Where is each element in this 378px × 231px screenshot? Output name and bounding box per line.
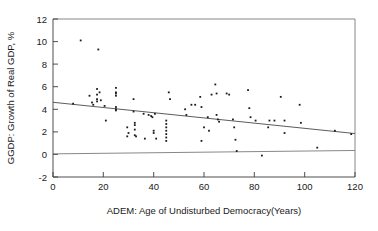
data-point-group xyxy=(72,40,352,157)
data-point xyxy=(134,124,136,126)
x-tick-label-80: 80 xyxy=(249,181,260,192)
data-point xyxy=(134,129,136,131)
data-point xyxy=(232,119,234,121)
data-point xyxy=(226,93,228,95)
data-point xyxy=(211,94,213,96)
data-point xyxy=(199,96,201,98)
data-point xyxy=(154,113,156,115)
data-point xyxy=(72,103,74,105)
data-point xyxy=(184,108,186,110)
y-tick-label-8: 8 xyxy=(42,59,47,70)
data-point xyxy=(168,91,170,93)
data-point xyxy=(115,95,117,97)
data-point xyxy=(299,104,301,106)
data-point xyxy=(191,104,193,106)
data-point xyxy=(155,138,157,140)
data-point xyxy=(235,139,237,141)
data-point xyxy=(135,135,137,137)
data-point xyxy=(115,106,117,108)
data-point xyxy=(169,98,171,100)
data-point xyxy=(115,93,117,95)
data-point xyxy=(284,120,286,122)
data-point xyxy=(274,120,276,122)
data-point xyxy=(216,114,218,116)
y-tick-label-2: 2 xyxy=(42,126,47,137)
data-point xyxy=(300,122,302,124)
data-point xyxy=(236,150,238,152)
data-point xyxy=(153,130,155,132)
y-tick-label-0: 0 xyxy=(42,149,47,160)
data-point xyxy=(194,104,196,106)
data-point xyxy=(216,93,218,95)
data-point xyxy=(165,123,167,125)
data-point xyxy=(96,94,98,96)
data-point xyxy=(96,88,98,90)
data-point xyxy=(316,147,318,149)
x-tick-label-0: 0 xyxy=(50,181,55,192)
data-point xyxy=(92,104,94,106)
data-point xyxy=(152,116,154,118)
x-tick-label-40: 40 xyxy=(148,181,159,192)
zero-reference-line xyxy=(53,150,355,153)
chart-canvas: 12 10 8 6 4 2 0 -2 0 20 40 60 80 100 120 xyxy=(0,0,378,231)
data-point xyxy=(133,111,135,113)
data-point xyxy=(207,116,209,118)
data-point xyxy=(165,140,167,142)
data-point xyxy=(280,96,282,98)
data-point xyxy=(269,120,271,122)
data-point xyxy=(214,84,216,86)
x-tick-label-20: 20 xyxy=(98,181,109,192)
x-axis-title: ADEM: Age of Undisturbed Democracy(Years… xyxy=(107,205,301,216)
data-point xyxy=(99,91,101,93)
data-point xyxy=(218,121,220,123)
data-point xyxy=(247,89,249,91)
data-point xyxy=(100,99,102,101)
regression-line xyxy=(53,102,355,133)
data-point xyxy=(153,132,155,134)
x-tick-label-120: 120 xyxy=(347,181,363,192)
x-axis-ticks: 0 20 40 60 80 100 120 xyxy=(50,172,363,192)
data-point xyxy=(165,137,167,139)
data-point xyxy=(334,130,336,132)
data-point xyxy=(248,107,250,109)
data-point xyxy=(144,138,146,140)
y-tick-label-minus2: -2 xyxy=(39,172,47,183)
x-tick-label-100: 100 xyxy=(297,181,313,192)
data-point xyxy=(126,135,128,137)
data-point xyxy=(148,114,150,116)
data-point xyxy=(133,98,135,100)
data-point xyxy=(89,95,91,97)
data-point xyxy=(96,98,98,100)
data-point xyxy=(91,102,93,104)
y-tick-label-10: 10 xyxy=(36,36,47,47)
data-point xyxy=(104,105,106,107)
data-point xyxy=(201,140,203,142)
data-point xyxy=(165,130,167,132)
data-point xyxy=(201,106,203,108)
data-point xyxy=(115,110,117,112)
data-point xyxy=(80,40,82,42)
data-point xyxy=(284,132,286,134)
data-point xyxy=(203,126,205,128)
y-tick-label-4: 4 xyxy=(42,104,47,115)
data-point xyxy=(165,126,167,128)
data-point xyxy=(350,133,352,135)
data-point xyxy=(126,126,128,128)
data-point xyxy=(228,94,230,96)
y-tick-label-12: 12 xyxy=(36,14,47,25)
data-point xyxy=(233,126,235,128)
data-point xyxy=(96,100,98,102)
data-point xyxy=(134,122,136,124)
data-point xyxy=(105,120,107,122)
data-point xyxy=(261,155,263,157)
data-point xyxy=(165,120,167,122)
data-point xyxy=(165,133,167,135)
data-point xyxy=(250,116,252,118)
y-axis-title: GGDP: Growth of Real GDP, % xyxy=(5,31,16,164)
data-point xyxy=(208,130,210,132)
data-point xyxy=(115,87,117,89)
data-point xyxy=(267,126,269,128)
y-axis-ticks: 12 10 8 6 4 2 0 -2 xyxy=(36,14,58,183)
y-tick-label-6: 6 xyxy=(42,81,47,92)
data-point xyxy=(185,114,187,116)
